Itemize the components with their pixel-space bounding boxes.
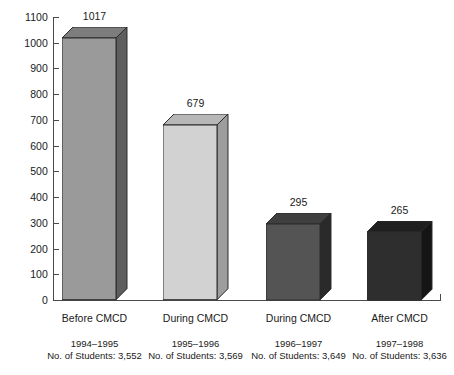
bar-top-face [367,221,432,232]
bar-3 [266,213,333,302]
y-axis-tick-label: 700 [30,115,48,126]
category-label: After CMCD [340,312,454,324]
y-axis-tick [54,94,59,95]
bar-1 [62,27,129,302]
y-axis-tick-label: 900 [30,63,48,74]
y-axis-tick-label: 100 [30,269,48,280]
y-axis-tick [54,17,59,18]
bar-value-label: 1017 [68,11,122,22]
y-axis-tick [54,249,59,250]
annotation-students: No. of Students: 3,636 [340,350,454,362]
y-axis-line [53,17,54,301]
category-label: During CMCD [136,312,256,324]
y-axis-tick [54,223,59,224]
category-annotation: 1997–1998No. of Students: 3,636 [340,338,454,362]
bar-side-face [116,27,127,300]
bar-side-face [217,114,228,300]
bar-front-face [367,232,421,300]
y-axis-tick [54,300,59,301]
y-axis-tick [54,146,59,147]
annotation-students: No. of Students: 3,569 [136,350,256,362]
y-axis-tick [54,68,59,69]
bar-side-face [421,221,432,300]
y-axis-tick-label: 1000 [24,38,48,49]
bar-value-label: 265 [373,205,427,216]
y-axis-tick [54,197,59,198]
bar-value-label: 679 [169,98,223,109]
bar-4 [367,221,434,302]
y-axis-tick [54,120,59,121]
annotation-period: 1997–1998 [340,338,454,350]
x-axis-end-cap [440,294,441,301]
y-axis-tick-label: 800 [30,89,48,100]
bar-front-face [163,125,217,300]
y-axis-tick [54,171,59,172]
y-axis-tick-label: 1100 [25,12,48,23]
category-annotation: 1995–1996No. of Students: 3,569 [136,338,256,362]
annotation-period: 1995–1996 [136,338,256,350]
plot-area: 010020030040050060070080090010001100 101… [0,0,454,375]
bar-side-face [320,213,331,300]
bar-front-face [266,224,320,300]
y-axis-tick-label: 600 [30,141,48,152]
bar-top-face [266,213,331,224]
bar-front-face [62,38,116,300]
y-axis-tick-label: 0 [42,295,48,306]
bar-2 [163,114,230,302]
bar-value-label: 295 [272,197,326,208]
y-axis-tick-label: 400 [30,192,48,203]
y-axis-tick-label: 300 [30,218,48,229]
y-axis-tick [54,274,59,275]
bar-top-face [62,27,127,38]
bar-chart: 010020030040050060070080090010001100 101… [0,0,454,375]
y-axis-tick [54,43,59,44]
y-axis-tick-label: 500 [30,166,48,177]
bar-top-face [163,114,228,125]
y-axis-tick-label: 200 [30,244,48,255]
